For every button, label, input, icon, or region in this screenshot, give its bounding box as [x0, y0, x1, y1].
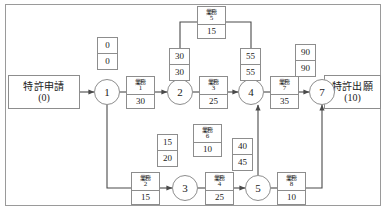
event-node-3-label: 3: [182, 183, 188, 194]
event-node-1-label: 1: [104, 87, 110, 98]
diagram-canvas: 特許申請 (0) 特許出願 (10) 1 2 3 4 5 7 業務 1 30 業…: [0, 0, 387, 217]
task-box-1-index: 1: [127, 85, 154, 94]
task-box-4: 業務 4 25: [205, 172, 234, 205]
time-box-node-4-earliest: 55: [241, 49, 260, 64]
time-box-node-7: 90 90: [295, 44, 316, 77]
task-box-5-duration: 15: [198, 24, 225, 38]
start-terminal: 特許申請 (0): [8, 75, 80, 109]
task-box-5-index: 5: [198, 15, 225, 24]
task-box-6-index: 6: [194, 133, 221, 142]
start-terminal-value: (0): [38, 92, 50, 104]
task-box-4-duration: 25: [206, 190, 233, 204]
task-box-8: 業務 8 10: [277, 172, 306, 205]
time-box-node-7-latest: 90: [296, 60, 315, 76]
time-box-node-2-earliest: 30: [170, 49, 189, 64]
task-box-2: 業務 2 15: [131, 172, 160, 205]
time-box-node-7-earliest: 90: [296, 45, 315, 60]
end-terminal-name: 特許出願: [332, 81, 373, 93]
task-box-4-index: 4: [206, 181, 233, 190]
task-box-3-duration: 25: [200, 94, 227, 108]
time-box-node-5-earliest: 40: [233, 139, 252, 154]
event-node-2-label: 2: [177, 87, 183, 98]
time-box-node-5-latest: 45: [233, 154, 252, 170]
task-box-5: 業務 5 15: [197, 6, 226, 39]
task-box-7-index: 7: [271, 85, 298, 94]
task-box-2-duration: 15: [132, 190, 159, 204]
event-node-1: 1: [94, 79, 120, 105]
event-node-4: 4: [238, 79, 264, 105]
event-node-7: 7: [309, 79, 335, 105]
task-box-3-index: 3: [200, 85, 227, 94]
task-box-1-duration: 30: [127, 94, 154, 108]
event-node-4-label: 4: [248, 87, 254, 98]
time-box-node-3-earliest: 15: [158, 135, 177, 150]
event-node-7-label: 7: [319, 87, 325, 98]
time-box-node-4-latest: 55: [241, 64, 260, 80]
time-box-node-2-latest: 30: [170, 64, 189, 80]
task-box-8-index: 8: [278, 181, 305, 190]
task-box-6: 業務 6 10: [193, 124, 222, 157]
task-box-6-duration: 10: [194, 142, 221, 156]
event-node-5-label: 5: [255, 183, 261, 194]
event-node-5: 5: [245, 175, 271, 201]
time-box-node-3-latest: 20: [158, 150, 177, 166]
task-box-2-index: 2: [132, 181, 159, 190]
start-terminal-name: 特許申請: [23, 81, 64, 93]
event-node-3: 3: [172, 175, 198, 201]
time-box-node-3: 15 20: [157, 134, 178, 167]
time-box-node-1-earliest: 0: [98, 38, 117, 53]
task-box-7-duration: 35: [271, 94, 298, 108]
time-box-node-5: 40 45: [232, 138, 253, 171]
end-terminal-value: (10): [344, 92, 361, 104]
time-box-node-1-latest: 0: [98, 53, 117, 69]
time-box-node-4: 55 55: [240, 48, 261, 81]
task-box-1: 業務 1 30: [126, 76, 155, 109]
event-node-2: 2: [167, 79, 193, 105]
task-box-7: 業務 7 35: [270, 76, 299, 109]
time-box-node-2: 30 30: [169, 48, 190, 81]
task-box-3: 業務 3 25: [199, 76, 228, 109]
task-box-8-duration: 10: [278, 190, 305, 204]
time-box-node-1: 0 0: [97, 37, 118, 70]
